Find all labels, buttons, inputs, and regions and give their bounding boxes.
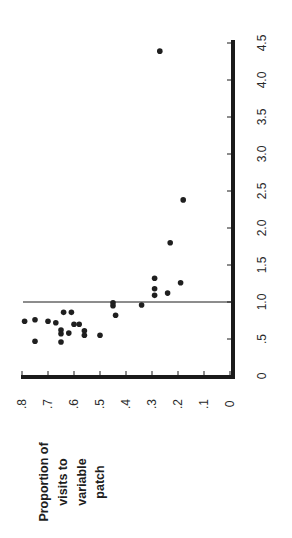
data-point [178, 280, 184, 286]
proportion-tick-label: .5 [93, 399, 107, 409]
data-point [165, 290, 171, 296]
data-point [82, 333, 88, 339]
data-point [69, 310, 75, 316]
proportion-tick-label: .6 [67, 399, 81, 409]
ratio-tick-label: .5 [255, 334, 269, 344]
ratio-tick-label: 3.5 [255, 108, 269, 125]
proportion-tick-label: .1 [197, 399, 211, 409]
axis-title-line: Proportion of [37, 442, 51, 522]
proportion-tick-label: .2 [171, 399, 185, 409]
data-point [152, 293, 158, 299]
data-point [139, 302, 145, 308]
data-point [152, 286, 158, 292]
axis-title-line: variable [75, 458, 89, 505]
data-point [53, 320, 59, 326]
axis-title: Proportion ofvisits tovariablepatch [37, 442, 107, 522]
axes [21, 40, 233, 379]
data-point [61, 310, 67, 316]
data-point [71, 321, 77, 327]
data-point [157, 48, 163, 54]
data-points [22, 48, 186, 344]
axis-title-line: patch [93, 465, 107, 498]
data-point [110, 303, 116, 309]
ratio-tick-label: 2.0 [255, 219, 269, 236]
data-point [32, 317, 38, 323]
proportion-tick-label: .7 [41, 399, 55, 409]
proportion-tick-label: .3 [145, 399, 159, 409]
scatter-chart: .8.7.6.5.4.3.2.10 0.51.01.52.02.53.03.54… [0, 0, 292, 538]
ratio-tick-label: 2.5 [255, 182, 269, 199]
data-point [58, 331, 64, 337]
ratio-tick-label: 0 [255, 372, 269, 379]
proportion-tick-label: .8 [15, 399, 29, 409]
data-point [113, 313, 119, 319]
ratio-tick-label: 4.5 [255, 34, 269, 51]
data-point [180, 197, 186, 203]
ratio-tick-label: 3.0 [255, 145, 269, 162]
proportion-tick-label: .4 [119, 399, 133, 409]
data-point [22, 318, 28, 324]
data-point [76, 321, 82, 327]
data-point [97, 333, 103, 339]
data-point [66, 330, 72, 336]
data-point [32, 338, 38, 344]
data-point [45, 318, 51, 324]
data-point [152, 276, 158, 282]
data-point [167, 240, 173, 246]
plot-area: .8.7.6.5.4.3.2.10 0.51.01.52.02.53.03.54… [15, 34, 269, 521]
data-point [58, 339, 64, 345]
proportion-tick-label: 0 [223, 400, 237, 407]
ratio-tick-label: 4.0 [255, 71, 269, 88]
axis-title-line: visits to [56, 458, 70, 506]
ratio-tick-label: 1.0 [255, 293, 269, 310]
ratio-tick-label: 1.5 [255, 256, 269, 273]
